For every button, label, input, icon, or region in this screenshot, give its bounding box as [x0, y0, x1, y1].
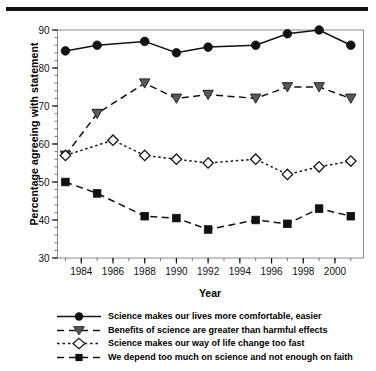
x-tick-label: 1992 — [197, 266, 220, 277]
data-point — [62, 178, 70, 186]
data-point — [171, 94, 181, 103]
data-point — [61, 47, 70, 56]
legend-item: Science makes our way of life change too… — [56, 337, 372, 351]
data-point — [204, 43, 213, 52]
y-tick-label: 70 — [38, 101, 50, 112]
y-tick-label: 30 — [38, 253, 50, 264]
data-point — [347, 212, 355, 220]
y-axis-ticks: 30405060708090 — [38, 25, 57, 264]
axes-frame — [58, 30, 364, 258]
legend: Science makes our lives more comfortable… — [56, 310, 372, 364]
x-tick-label: 1988 — [134, 266, 157, 277]
x-tick-label: 1998 — [292, 266, 315, 277]
legend-key-square-dashed — [56, 351, 102, 364]
data-point — [347, 41, 356, 50]
data-point — [315, 205, 323, 213]
data-point — [172, 49, 181, 58]
x-tick-label: 1984 — [70, 266, 93, 277]
data-point — [283, 30, 292, 39]
data-series-group — [60, 26, 356, 234]
data-point — [282, 83, 292, 92]
data-point — [204, 226, 212, 234]
data-point — [314, 162, 324, 172]
data-point — [252, 216, 260, 224]
data-point — [140, 150, 150, 160]
data-point — [346, 156, 356, 166]
x-tick-label: 1994 — [229, 266, 252, 277]
legend-item: We depend too much on science and not en… — [56, 351, 372, 365]
data-point — [315, 26, 324, 35]
legend-key-triangle-dashed — [56, 324, 102, 337]
legend-item: Science makes our lives more comfortable… — [56, 310, 372, 324]
data-point — [314, 83, 324, 92]
y-tick-label: 40 — [38, 215, 50, 226]
data-point — [284, 220, 292, 228]
plot-border — [58, 30, 364, 258]
series-square-filled — [62, 178, 355, 233]
data-point — [140, 79, 150, 88]
data-point — [141, 212, 149, 220]
data-point — [92, 109, 102, 118]
legend-key-circle-solid — [56, 310, 102, 323]
x-tick-label: 2000 — [324, 266, 347, 277]
legend-item: Benefits of science are greater than har… — [56, 324, 372, 338]
figure: Percentage agreeing with statement Year … — [0, 0, 376, 371]
x-tick-label: 1986 — [102, 266, 125, 277]
x-tick-label: 1996 — [260, 266, 283, 277]
data-point — [93, 190, 101, 198]
legend-key-diamond-dotted — [56, 337, 102, 350]
legend-label: We depend too much on science and not en… — [102, 351, 353, 365]
data-point — [203, 158, 213, 168]
series-line — [65, 182, 350, 230]
data-point — [108, 135, 118, 145]
legend-label: Science makes our way of life change too… — [102, 337, 305, 351]
data-point — [203, 90, 213, 99]
data-point — [140, 37, 149, 46]
y-tick-label: 90 — [38, 25, 50, 36]
data-point — [173, 214, 181, 222]
data-point — [282, 169, 292, 179]
data-point — [171, 154, 181, 164]
data-point — [250, 154, 260, 164]
series-triangle-down-filled — [60, 79, 356, 160]
legend-label: Benefits of science are greater than har… — [102, 324, 328, 338]
y-tick-label: 50 — [38, 177, 50, 188]
data-point — [93, 41, 102, 50]
y-tick-label: 60 — [38, 139, 50, 150]
x-tick-label: 1990 — [165, 266, 188, 277]
data-point — [346, 94, 356, 103]
data-point — [251, 41, 260, 50]
series-diamond-open — [60, 135, 356, 180]
y-tick-label: 80 — [38, 63, 50, 74]
x-axis-ticks: 198419861988199019921994199619982000 — [65, 258, 350, 277]
legend-label: Science makes our lives more comfortable… — [102, 310, 322, 324]
